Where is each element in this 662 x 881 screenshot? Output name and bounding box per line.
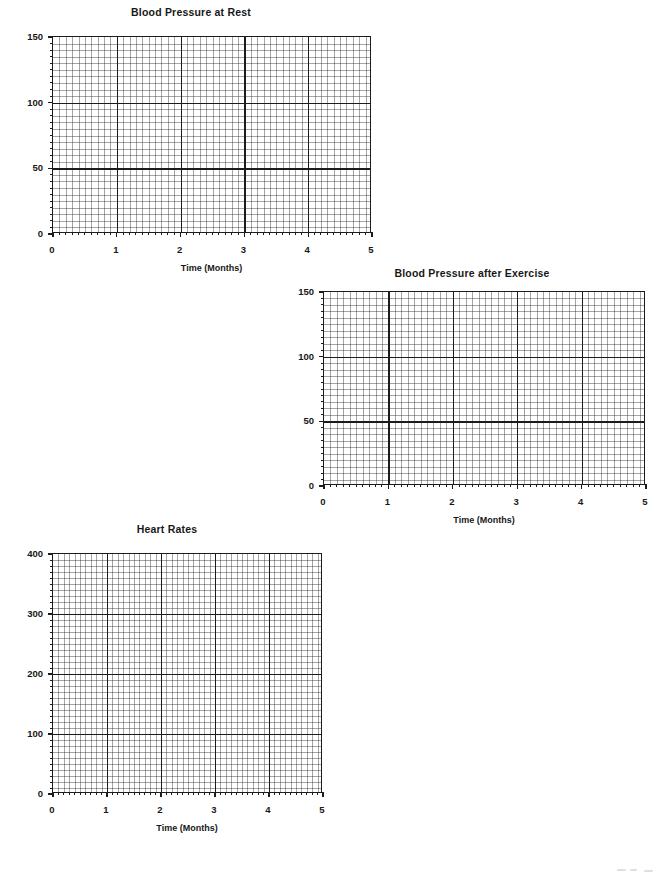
worksheet-page: Blood Pressure at Rest 050100150012345Ti… xyxy=(0,0,662,881)
y-axis-minor-tick xyxy=(50,740,53,741)
y-axis-minor-tick xyxy=(50,770,53,771)
y-axis-minor-tick xyxy=(50,142,53,143)
y-axis-minor-tick xyxy=(50,56,53,57)
x-axis-minor-tick xyxy=(90,792,91,795)
x-axis-minor-tick xyxy=(174,232,175,235)
x-axis-major-tick xyxy=(116,232,117,237)
x-axis-label: Time (Months) xyxy=(181,263,242,273)
chart-title: Blood Pressure after Exercise xyxy=(302,267,642,279)
y-axis-minor-tick xyxy=(50,776,53,777)
x-axis-minor-tick xyxy=(91,232,92,235)
y-axis-minor-tick xyxy=(50,626,53,627)
y-axis-minor-tick xyxy=(50,752,53,753)
x-axis-minor-tick xyxy=(199,232,200,235)
x-axis-minor-tick xyxy=(171,792,172,795)
x-axis-minor-tick xyxy=(155,232,156,235)
x-axis-minor-tick xyxy=(594,484,595,487)
x-axis-minor-tick xyxy=(257,232,258,235)
x-axis-minor-tick xyxy=(263,792,264,795)
x-axis-minor-tick xyxy=(588,484,589,487)
y-axis-minor-tick xyxy=(321,408,324,409)
y-axis-minor-tick xyxy=(50,50,53,51)
y-axis-minor-tick xyxy=(321,460,324,461)
x-axis-minor-tick xyxy=(84,232,85,235)
y-axis-minor-tick xyxy=(50,656,53,657)
y-axis-minor-tick xyxy=(321,440,324,441)
x-axis-major-tick xyxy=(214,792,215,797)
x-axis-minor-tick xyxy=(607,484,608,487)
y-axis-minor-tick xyxy=(50,662,53,663)
x-axis-minor-tick xyxy=(317,792,318,795)
x-axis-minor-tick xyxy=(97,232,98,235)
x-axis-major-tick xyxy=(581,484,582,489)
x-axis-tick-label: 5 xyxy=(642,496,647,507)
x-axis-minor-tick xyxy=(186,232,187,235)
x-axis-major-tick xyxy=(322,792,323,797)
x-axis-minor-tick xyxy=(427,484,428,487)
y-axis-minor-tick xyxy=(50,560,53,561)
x-axis-minor-tick xyxy=(101,792,102,795)
y-axis-minor-tick xyxy=(50,214,53,215)
y-axis-major-tick xyxy=(48,733,53,734)
x-axis-major-tick xyxy=(308,232,309,237)
x-axis-minor-tick xyxy=(420,484,421,487)
x-axis-minor-tick xyxy=(282,232,283,235)
y-axis-minor-tick xyxy=(50,207,53,208)
y-axis-minor-tick xyxy=(50,89,53,90)
x-axis-minor-tick xyxy=(193,792,194,795)
x-axis-minor-tick xyxy=(65,232,66,235)
x-axis-minor-tick xyxy=(135,232,136,235)
x-axis-minor-tick xyxy=(123,792,124,795)
x-axis-tick-label: 0 xyxy=(49,804,54,815)
x-axis-minor-tick xyxy=(276,232,277,235)
x-axis-minor-tick xyxy=(575,484,576,487)
x-axis-minor-tick xyxy=(352,232,353,235)
x-axis-minor-tick xyxy=(96,792,97,795)
x-axis-minor-tick xyxy=(212,232,213,235)
x-axis-minor-tick xyxy=(365,232,366,235)
x-axis-minor-tick xyxy=(209,792,210,795)
x-axis-minor-tick xyxy=(231,792,232,795)
x-axis-minor-tick xyxy=(600,484,601,487)
x-axis-minor-tick xyxy=(285,792,286,795)
x-axis-tick-label: 3 xyxy=(211,804,216,815)
x-axis-minor-tick xyxy=(401,484,402,487)
x-axis-minor-tick xyxy=(144,792,145,795)
x-axis-minor-tick xyxy=(182,792,183,795)
y-axis-minor-tick xyxy=(50,128,53,129)
x-axis-major-tick xyxy=(323,484,324,489)
x-axis-minor-tick xyxy=(314,232,315,235)
x-axis-minor-tick xyxy=(225,792,226,795)
x-axis-minor-tick xyxy=(290,792,291,795)
x-axis-major-tick xyxy=(106,792,107,797)
y-axis-minor-tick xyxy=(321,466,324,467)
x-axis-minor-tick xyxy=(381,484,382,487)
y-axis-major-tick xyxy=(48,102,53,103)
y-axis-minor-tick xyxy=(50,43,53,44)
chart-blood-pressure-after-exercise: Blood Pressure after Exercise 0501001500… xyxy=(262,267,662,537)
x-axis-major-tick xyxy=(160,792,161,797)
x-axis-minor-tick xyxy=(218,232,219,235)
x-axis-minor-tick xyxy=(231,232,232,235)
x-axis-minor-tick xyxy=(63,792,64,795)
x-axis-minor-tick xyxy=(562,484,563,487)
x-axis-tick-label: 3 xyxy=(241,244,246,255)
y-axis-minor-tick xyxy=(50,82,53,83)
y-axis-minor-tick xyxy=(50,161,53,162)
chart-blood-pressure-at-rest: Blood Pressure at Rest 050100150012345Ti… xyxy=(0,6,400,278)
x-axis-tick-label: 2 xyxy=(449,496,454,507)
y-axis-minor-tick xyxy=(50,590,53,591)
y-axis-minor-tick xyxy=(50,155,53,156)
x-axis-major-tick xyxy=(52,792,53,797)
y-axis-tick-label: 150 xyxy=(0,31,43,42)
x-axis-minor-tick xyxy=(459,484,460,487)
y-axis-major-tick xyxy=(319,291,324,292)
x-axis-minor-tick xyxy=(369,484,370,487)
y-axis-minor-tick xyxy=(321,427,324,428)
x-axis-minor-tick xyxy=(446,484,447,487)
y-axis-minor-tick xyxy=(50,608,53,609)
x-axis-minor-tick xyxy=(306,792,307,795)
scan-artifact xyxy=(644,870,653,872)
x-axis-minor-tick xyxy=(166,792,167,795)
y-axis-minor-tick xyxy=(321,434,324,435)
